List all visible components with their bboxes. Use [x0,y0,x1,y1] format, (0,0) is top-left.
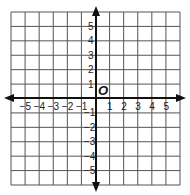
y-axis-arrow-down-icon [92,182,100,192]
y-tick-label: 1 [88,79,94,90]
x-tick-label: 1 [107,101,113,112]
x-axis-arrow-right-icon [176,94,186,102]
x-tick-label: −2 [62,101,74,112]
y-tick-label: −3 [84,136,96,147]
coordinate-plane: −5−4−3−2−11234554321−1−2−3−4−5 O [0,0,190,195]
x-tick-label: 3 [135,101,141,112]
y-tick-label: −1 [84,107,96,118]
y-tick-label: −5 [84,165,96,176]
origin-label: O [98,83,108,98]
y-tick-label: −2 [84,122,96,133]
x-tick-label: −4 [34,101,46,112]
x-tick-label: 5 [163,101,169,112]
y-axis-arrow-up-icon [92,6,100,16]
y-tick-label: 5 [88,21,94,32]
x-tick-label: 4 [149,101,155,112]
x-tick-label: 2 [121,101,127,112]
x-tick-label: −3 [48,101,60,112]
x-axis-arrow-left-icon [4,94,14,102]
x-tick-label: −5 [20,101,32,112]
y-tick-label: −4 [84,151,96,162]
y-tick-label: 4 [88,35,94,46]
y-tick-label: 2 [88,64,94,75]
y-tick-label: 3 [88,50,94,61]
